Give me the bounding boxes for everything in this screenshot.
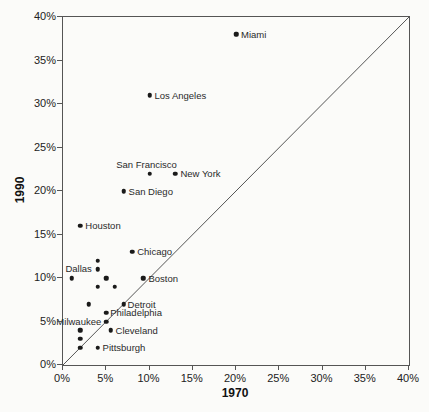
data-point (78, 337, 83, 342)
y-tick-mark (57, 234, 62, 235)
data-point (104, 319, 109, 324)
data-point (121, 189, 126, 194)
data-point (121, 302, 126, 307)
data-point (108, 328, 113, 333)
x-tick-mark (365, 366, 366, 370)
plot-area: MiamiLos AngelesSan FranciscoNew YorkSan… (62, 16, 410, 366)
data-point (78, 224, 83, 229)
x-tick-label: 35% (347, 372, 383, 384)
y-tick-label: 15% (24, 228, 56, 240)
data-point (141, 276, 146, 281)
y-tick-mark (57, 16, 62, 17)
x-tick-label: 0% (44, 372, 80, 384)
y-tick-mark (57, 147, 62, 148)
x-tick-mark (278, 366, 279, 370)
x-tick-mark (408, 366, 409, 370)
x-axis-title: 1970 (62, 386, 408, 400)
data-point (147, 93, 152, 98)
x-tick-label: 20% (217, 372, 253, 384)
x-tick-mark (149, 366, 150, 370)
y-tick-mark (57, 103, 62, 104)
point-label: San Diego (129, 186, 173, 197)
y-tick-mark (57, 277, 62, 278)
y-tick-label: 35% (24, 54, 56, 66)
data-point (95, 267, 100, 272)
data-point (95, 258, 100, 263)
scatter-plot-figure: 1990 MiamiLos AngelesSan FranciscoNew Yo… (0, 0, 429, 412)
x-tick-mark (105, 366, 106, 370)
y-tick-mark (57, 60, 62, 61)
y-tick-mark (57, 364, 62, 365)
data-point (87, 302, 92, 307)
y-tick-mark (57, 190, 62, 191)
x-tick-label: 40% (390, 372, 426, 384)
y-tick-mark (57, 321, 62, 322)
x-tick-mark (235, 366, 236, 370)
y-tick-label: 20% (24, 184, 56, 196)
y-tick-label: 0% (24, 358, 56, 370)
y-tick-label: 5% (24, 315, 56, 327)
x-tick-label: 25% (260, 372, 296, 384)
x-tick-label: 5% (87, 372, 123, 384)
data-point (69, 276, 74, 281)
point-label: Dallas (65, 263, 91, 274)
y-tick-label: 25% (24, 141, 56, 153)
point-label: Cleveland (116, 325, 158, 336)
data-point (104, 276, 109, 281)
data-point (78, 345, 83, 350)
x-tick-mark (192, 366, 193, 370)
point-label: Houston (85, 220, 120, 231)
data-point (95, 345, 100, 350)
data-point (78, 328, 83, 333)
x-tick-label: 30% (304, 372, 340, 384)
x-tick-label: 15% (174, 372, 210, 384)
y-tick-label: 40% (24, 10, 56, 22)
data-point (113, 284, 118, 289)
point-label: Chicago (137, 246, 172, 257)
point-label: Milwaukee (56, 316, 101, 327)
data-point (104, 311, 109, 316)
x-tick-mark (322, 366, 323, 370)
point-label: Miami (241, 29, 266, 40)
data-point (147, 171, 152, 176)
data-point (234, 32, 239, 37)
data-point (95, 284, 100, 289)
x-tick-label: 10% (131, 372, 167, 384)
point-label: Los Angeles (155, 90, 207, 101)
data-point (130, 250, 135, 255)
point-label: Pittsburgh (103, 342, 146, 353)
point-label: Boston (148, 273, 178, 284)
point-label: San Francisco (116, 159, 177, 170)
x-tick-mark (62, 366, 63, 370)
data-point (173, 171, 178, 176)
y-tick-label: 30% (24, 97, 56, 109)
point-label: Philadelphia (110, 307, 162, 318)
point-label: New York (180, 168, 220, 179)
y-tick-label: 10% (24, 271, 56, 283)
